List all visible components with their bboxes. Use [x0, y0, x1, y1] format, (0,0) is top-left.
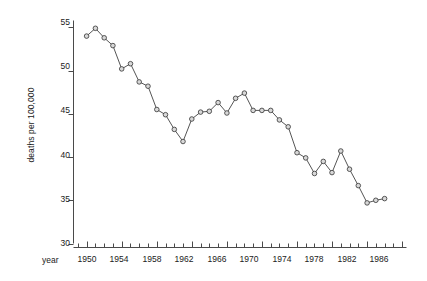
data-point [356, 183, 361, 188]
data-point [190, 117, 195, 122]
axis-lines [74, 21, 407, 248]
y-axis-title: deaths per 100,000 [26, 35, 36, 215]
data-point [286, 125, 291, 130]
line-chart: deaths per 100,000 year 55 50 45 40 35 3… [0, 0, 427, 281]
y-tick-label-50: 50 [50, 62, 70, 71]
data-point [198, 110, 203, 115]
data-point [119, 67, 124, 72]
data-point [277, 118, 282, 123]
x-tick-label-1986: 1986 [364, 255, 394, 264]
data-point [172, 127, 177, 132]
data-point [146, 84, 151, 89]
data-point [242, 91, 247, 96]
x-tick-label-1978: 1978 [299, 255, 329, 264]
data-point [303, 156, 308, 161]
data-point [268, 108, 273, 113]
x-tick-label-1962: 1962 [169, 255, 199, 264]
data-point [312, 171, 317, 176]
data-point [295, 150, 300, 155]
y-tick-label-30: 30 [50, 239, 70, 248]
data-point [216, 100, 221, 105]
data-point [382, 196, 387, 201]
data-point [374, 198, 379, 203]
data-point [225, 111, 230, 116]
y-tick-label-55: 55 [50, 18, 70, 27]
data-point [251, 108, 256, 113]
y-tick-label-35: 35 [50, 195, 70, 204]
data-point [102, 36, 107, 41]
data-line [87, 28, 385, 203]
data-point [339, 149, 344, 154]
data-point [84, 34, 89, 39]
data-point [321, 159, 326, 164]
data-point [233, 96, 238, 101]
y-tick-label-40: 40 [50, 151, 70, 160]
x-tick-label-1954: 1954 [104, 255, 134, 264]
data-point [128, 61, 133, 66]
data-point [111, 43, 116, 48]
data-point [163, 112, 168, 117]
data-point [137, 80, 142, 85]
x-tick-label-1970: 1970 [234, 255, 264, 264]
data-point [181, 139, 186, 144]
x-tick-label-1974: 1974 [267, 255, 297, 264]
data-point [260, 108, 265, 113]
data-point [207, 109, 212, 114]
data-point [155, 107, 160, 112]
y-tick-label-45: 45 [50, 106, 70, 115]
x-tick-label-1958: 1958 [137, 255, 167, 264]
x-tick-marks [79, 242, 403, 248]
data-point [347, 167, 352, 172]
x-axis-title: year [42, 255, 72, 265]
data-markers [84, 26, 387, 205]
x-tick-label-1966: 1966 [202, 255, 232, 264]
data-point [93, 26, 98, 31]
data-point [330, 170, 335, 175]
data-point [365, 201, 370, 206]
x-tick-label-1982: 1982 [332, 255, 362, 264]
x-tick-label-1950: 1950 [72, 255, 102, 264]
